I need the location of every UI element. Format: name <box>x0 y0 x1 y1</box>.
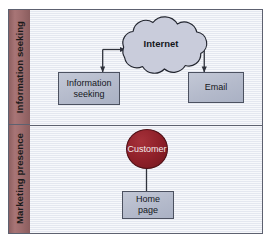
node-email-label: Email <box>205 82 228 93</box>
lane-divider <box>30 125 262 126</box>
diagram-frame: Information seeking Marketing presence <box>8 9 263 234</box>
node-information-seeking[interactable]: Information seeking <box>58 72 120 105</box>
connector-email-internet <box>182 50 204 73</box>
lane-label-information-seeking: Information seeking <box>9 10 30 125</box>
lane-label-marketing-presence-text: Marketing presence <box>15 133 25 224</box>
node-home-page[interactable]: Home page <box>122 191 174 219</box>
node-information-seeking-label: Information seeking <box>61 78 117 100</box>
diagram-canvas: Internet Information seeking Email Custo… <box>30 10 262 233</box>
node-email[interactable]: Email <box>188 72 244 103</box>
lane-label-marketing-presence: Marketing presence <box>9 125 30 233</box>
node-home-page-label: Home page <box>125 194 171 216</box>
node-customer[interactable]: Customer <box>126 129 168 169</box>
diagram-root: Information seeking Marketing presence <box>0 0 272 244</box>
lane-label-information-seeking-text: Information seeking <box>15 21 25 113</box>
connector-information-seeking-internet <box>103 50 125 73</box>
node-internet-label: Internet <box>126 39 196 49</box>
node-customer-label: Customer <box>127 144 166 154</box>
lane-label-column: Information seeking Marketing presence <box>9 10 30 233</box>
